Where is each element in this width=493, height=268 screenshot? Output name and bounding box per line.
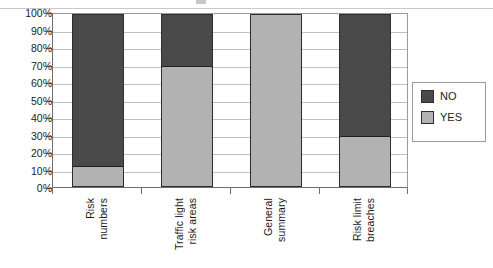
x-tick-mark (319, 188, 320, 194)
x-axis-label: Risknumbers (64, 198, 130, 228)
bar-segment-yes (340, 137, 390, 186)
bar-group (161, 14, 213, 187)
scan-artifact-line (0, 8, 493, 9)
y-tick-label: 30% (10, 131, 52, 141)
bar-segment-no (340, 15, 390, 137)
y-tick-label: 50% (10, 96, 52, 106)
chart-figure: 100%90%80%70%60%50%40%30%20%10%0% Risknu… (0, 0, 493, 268)
x-axis-label-line: General (262, 198, 274, 236)
scan-artifact-mark (196, 0, 206, 4)
x-axis-label-line: risk areas (186, 198, 198, 245)
legend-item-no[interactable]: NO (421, 90, 485, 103)
x-axis: RisknumbersTraffic lightrisk areasGenera… (52, 188, 408, 268)
x-axis-label-line: Risk (84, 198, 96, 219)
x-axis-label: Risk limitbreaches (331, 198, 397, 228)
x-axis-label-line: summary (275, 198, 287, 242)
y-tick-label: 40% (10, 113, 52, 123)
bar-segment-no (73, 15, 123, 167)
y-tick-label: 100% (10, 8, 52, 18)
x-tick-mark (52, 188, 53, 194)
x-tick-mark (141, 188, 142, 194)
bar-segment-yes (162, 67, 212, 186)
x-axis-label-line: Risk limit (351, 198, 363, 241)
chart-legend: NOYES (412, 82, 486, 142)
plot-area (52, 13, 408, 188)
bar-segment-no (162, 15, 212, 67)
stacked-bar (161, 14, 213, 187)
x-axis-label: Traffic lightrisk areas (153, 198, 219, 228)
x-axis-label-line: breaches (364, 198, 376, 242)
stacked-bar (72, 14, 124, 187)
legend-label: YES (440, 112, 462, 123)
legend-swatch-yes-icon (421, 111, 434, 124)
stacked-bar (339, 14, 391, 187)
stacked-bar (250, 14, 302, 187)
legend-item-yes[interactable]: YES (421, 111, 485, 124)
y-tick-label: 20% (10, 148, 52, 158)
bar-segment-yes (251, 15, 301, 186)
y-tick-label: 70% (10, 61, 52, 71)
bar-segment-yes (73, 167, 123, 186)
y-tick-label: 60% (10, 78, 52, 88)
y-axis: 100%90%80%70%60%50%40%30%20%10%0% (0, 13, 52, 188)
y-tick-label: 90% (10, 26, 52, 36)
x-axis-label: Generalsummary (242, 198, 308, 228)
bar-group (72, 14, 124, 187)
x-tick-mark (407, 188, 408, 194)
legend-swatch-no-icon (421, 90, 434, 103)
y-tick-label: 10% (10, 166, 52, 176)
y-tick-label: 80% (10, 43, 52, 53)
bar-group (339, 14, 391, 187)
x-tick-mark (230, 188, 231, 194)
x-axis-label-line: numbers (97, 198, 109, 240)
x-axis-label-line: Traffic light (173, 198, 185, 250)
bar-group (250, 14, 302, 187)
legend-label: NO (440, 91, 457, 102)
y-tick-label: 0% (10, 183, 52, 193)
